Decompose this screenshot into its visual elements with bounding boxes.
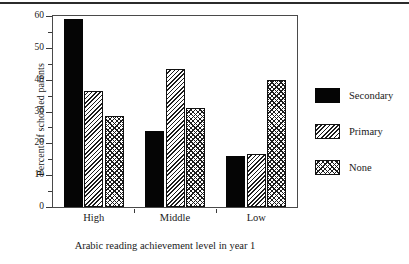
y-tick-minor [48,159,52,160]
y-tick-minor [48,32,52,33]
bar-none-high [105,116,124,207]
legend-item-secondary[interactable]: Secondary [315,84,409,106]
y-tick-major [46,112,52,113]
bar-primary-low [247,154,266,207]
bar-group [145,16,205,207]
y-tick-minor [48,64,52,65]
y-axis-title-host: Percent of schooled parents [18,18,32,208]
y-tick-major [46,48,52,49]
legend-swatch-none [315,160,340,175]
x-axis-title: Arabic reading achievement level in year… [0,240,330,251]
y-tick-major [46,143,52,144]
y-tick-major [46,16,52,17]
y-axis-title: Percent of schooled parents [35,40,46,200]
x-category-label: Low [216,212,296,223]
legend-swatch-primary [315,124,340,139]
legend-label: Secondary [349,90,393,101]
x-category-label: High [54,212,134,223]
bars-layer [53,16,297,207]
y-tick-minor [48,191,52,192]
legend-swatch-secondary [315,88,340,103]
y-tick-major [46,207,52,208]
chart-legend: SecondaryPrimaryNone [315,84,409,192]
bar-group [64,16,124,207]
legend-item-none[interactable]: None [315,156,409,178]
legend-item-primary[interactable]: Primary [315,120,409,142]
bar-primary-high [84,91,103,207]
bar-group [226,16,286,207]
bar-secondary-high [64,19,83,207]
bar-primary-middle [166,69,185,207]
page-top-rule [0,2,409,4]
bar-secondary-middle [145,131,164,207]
bar-secondary-low [226,156,245,207]
y-tick-minor [48,127,52,128]
figure-bar-chart: 0102030405060 Percent of schooled parent… [0,0,409,264]
y-tick-major [46,80,52,81]
x-category-label: Middle [135,212,215,223]
legend-label: Primary [349,126,383,137]
y-tick-minor [48,96,52,97]
bar-none-low [267,80,286,207]
legend-label: None [349,162,372,173]
bar-none-middle [186,108,205,207]
y-tick-major [46,175,52,176]
